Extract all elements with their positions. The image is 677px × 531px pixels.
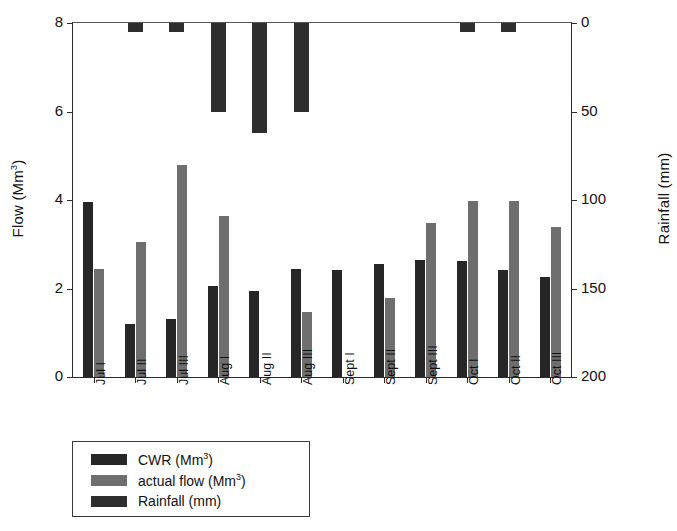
y-tick-right-50 [571,112,577,113]
legend-label-flow: actual flow (Mm3) [138,472,246,489]
y-axis-left-title: Flow (Mm3) [9,119,26,279]
bar-cwr [208,286,218,377]
x-label-aug-ii: Aug II [260,352,274,385]
bar-rainfall [460,23,475,32]
bar-cwr [166,319,176,377]
bar-cwr [498,270,508,377]
legend-swatch-cwr [91,454,127,465]
bar-cwr [249,291,259,377]
y-tick-right-150 [571,289,577,290]
bar-cwr [415,260,425,377]
x-label-aug-i: Aug I [218,356,232,385]
y-ticklabel-left-0: 0 [55,367,63,384]
y-ticklabel-right-0: 0 [581,13,589,30]
y-tick-left-4 [67,200,73,201]
y-axis-left-title-main: Flow (Mm [9,170,26,237]
legend-item-cwr[interactable]: CWR (Mm3) [91,449,309,469]
bar-rainfall [252,23,267,133]
chart-legend: CWR (Mm3)actual flow (Mm3)Rainfall (mm) [72,441,310,517]
x-label-oct-i: Oct I [467,359,481,385]
x-label-oct-ii: Oct II [509,355,523,385]
plot-area: 8 6 4 2 0 0 50 100 150 200 Jul IJul IIJu… [72,22,572,378]
x-label-sept-i: Sept I [343,352,357,385]
bar-actual-flow [509,201,519,377]
y-tick-right-100 [571,200,577,201]
y-ticklabel-right-100: 100 [581,190,606,207]
y-ticklabel-left-8: 8 [55,13,63,30]
y-tick-right-200 [571,377,577,378]
legend-label-cwr: CWR (Mm3) [138,451,213,468]
y-ticklabel-left-4: 4 [55,190,63,207]
y-tick-left-6 [67,112,73,113]
chart-figure: Flow (Mm3) Rainfall (mm) 8 6 4 2 0 0 50 … [0,0,677,531]
bar-cwr [374,264,384,377]
y-tick-left-2 [67,289,73,290]
y-axis-left-title-tail: ) [9,160,26,165]
legend-item-flow[interactable]: actual flow (Mm3) [91,470,309,490]
legend-swatch-rainfall [91,496,127,507]
bar-rainfall [211,23,226,112]
legend-swatch-flow [91,475,127,486]
y-tick-left-8 [67,23,73,24]
bar-actual-flow [219,216,229,378]
bar-actual-flow [136,242,146,377]
y-tick-right-0 [571,23,577,24]
y-tick-left-0 [67,377,73,378]
y-ticklabel-right-200: 200 [581,367,606,384]
x-label-jul-i: Jul I [94,362,108,385]
bar-rainfall [501,23,516,32]
x-label-jul-iii: Jul III [177,355,191,385]
bar-cwr [457,261,467,377]
x-label-aug-iii: Aug III [301,349,315,385]
y-axis-right-title: Rainfall (mm) [655,114,672,284]
legend-label-rainfall: Rainfall (mm) [138,493,221,509]
bar-rainfall [169,23,184,32]
bar-rainfall [294,23,309,112]
bar-rainfall [128,23,143,32]
x-label-sept-iii: Sept III [426,345,440,385]
y-ticklabel-left-6: 6 [55,102,63,119]
bar-cwr [83,202,93,377]
legend-item-rainfall[interactable]: Rainfall (mm) [91,491,309,511]
bar-cwr [332,270,342,377]
bar-cwr [291,269,301,377]
x-label-jul-ii: Jul II [135,359,149,385]
y-ticklabel-right-50: 50 [581,102,598,119]
bar-cwr [540,277,550,377]
bar-actual-flow [468,201,478,377]
y-ticklabel-right-150: 150 [581,279,606,296]
x-label-oct-iii: Oct III [550,352,564,385]
x-label-sept-ii: Sept II [384,349,398,385]
y-ticklabel-left-2: 2 [55,279,63,296]
y-axis-left-title-superscript: 3 [9,165,19,170]
bar-actual-flow [94,269,104,377]
bar-actual-flow [177,165,187,377]
bar-cwr [125,324,135,377]
